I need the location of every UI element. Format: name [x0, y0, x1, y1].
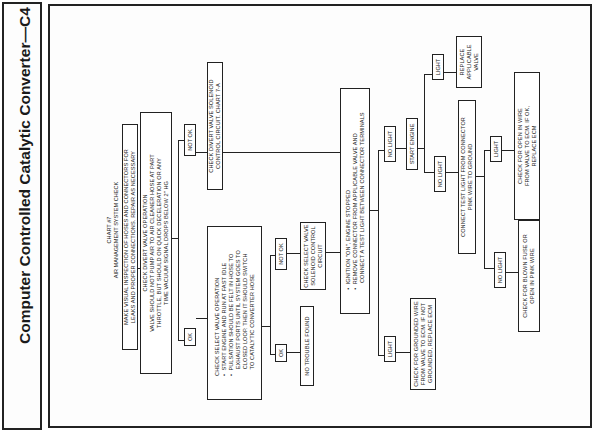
- node-text: THROTTLE, BUT SHOULD ON QUICK DECELERATI…: [156, 154, 163, 332]
- node-text: GROUNDED, REPLACE ECM: [427, 301, 434, 387]
- node-text: VALVE: [473, 44, 480, 79]
- node-text: • PULSATION SHOULD BE FELT IN HOSE TO: [228, 250, 235, 376]
- chart-heading: CHART #7 AIR MANAGEMENT SYSTEM CHECK: [104, 160, 122, 300]
- node-text: CHECK FOR BLOWN FUSE OR: [522, 234, 529, 318]
- node-text: CHECK SELECT VALVE OPERATION: [214, 250, 221, 376]
- blown-fuse-box: CHECK FOR BLOWN FUSE OR OPEN IN PINK WIR…: [518, 220, 540, 332]
- node-text: CONNECT A TEST LIGHT BETWEEN CONNECTOR T…: [359, 112, 366, 289]
- node-text: CLOSED LOOP. THEN IT SHOULD SWITCH: [242, 250, 249, 376]
- connector-line: [446, 172, 458, 173]
- branch-label-text: OK: [187, 333, 193, 341]
- node-text: NO TROUBLE FOUND: [304, 316, 311, 375]
- branch-label-start-light: LIGHT: [432, 54, 444, 80]
- select-solenoid-box: CHECK SELECT VALVE SOLENOID CONTROL CIRC…: [300, 222, 326, 290]
- branch-label-select-ok: OK: [275, 344, 287, 362]
- node-text: CHECK SELECT VALVE: [303, 224, 310, 287]
- connector-line: [287, 253, 301, 254]
- node-text: FROM VALVE TO ECM. IF NOT: [420, 301, 427, 387]
- connector-line: [326, 252, 340, 253]
- connector-line: [287, 352, 301, 353]
- connector-line: [502, 150, 514, 151]
- node-text: CIRCUIT: [317, 224, 324, 287]
- title-panel: Computer Controlled Catalytic Converter—…: [2, 2, 42, 430]
- node-text: CHECK FOR GROUNDED WIRE: [413, 301, 420, 387]
- connector-line: [506, 272, 518, 273]
- no-trouble-found-box: NO TROUBLE FOUND: [300, 306, 314, 386]
- branch-label-text: NO LIGHT: [497, 257, 503, 283]
- branch-label-divert-ok: OK: [184, 328, 196, 346]
- node-text: • REMOVE CONNECTOR FROM APPLICABLE VALVE…: [352, 112, 359, 289]
- connector-line: [270, 255, 271, 355]
- node-text: CONNECT TEST LIGHT FROM CONNECTOR: [460, 117, 467, 237]
- node-text: REPLACE ECM: [531, 106, 538, 186]
- node-text: SOLENOID CONTROL: [310, 224, 317, 287]
- branch-label-ground-light: LIGHT: [490, 136, 502, 162]
- visual-inspection-box: MAKE VISUAL INSPECTION OF HOSES AND CONN…: [122, 124, 138, 350]
- connector-line: [178, 140, 179, 340]
- connector-line: [424, 74, 425, 172]
- connector-line: [484, 150, 485, 268]
- connector-line: [424, 74, 432, 75]
- branch-label-text: LIGHT: [493, 141, 499, 157]
- connect-test-light-box: CONNECT TEST LIGHT FROM CONNECTOR PINK W…: [458, 100, 476, 254]
- ignition-on-box: • IGNITION "ON", ENGINE STOPPED • REMOVE…: [340, 88, 370, 314]
- connector-line: [396, 148, 406, 149]
- node-text: APPLICABLE: [466, 44, 473, 79]
- divert-solenoid-box: CHECK DIVERT VALVE SOLENOID CONTROL CIRC…: [207, 62, 223, 190]
- branch-label-ignition-light: LIGHT: [384, 336, 396, 362]
- node-text: TIME VACUUM SIGNAL DROPS BELOW 2" HG: [163, 154, 170, 332]
- node-text: • START ENGINE AND RUN AT FAST IDLE: [221, 250, 228, 376]
- branch-label-start-no-light: NO LIGHT: [434, 156, 446, 192]
- node-text: TO CATALYTIC CONVERTER HOSE: [249, 250, 256, 376]
- open-wire-box: CHECK FOR OPEN IN WIRE FROM VALVE TO ECM…: [514, 72, 540, 220]
- branch-label-ground-no-light: NO LIGHT: [494, 252, 506, 288]
- connector-line: [484, 268, 494, 269]
- connector-line: [378, 150, 379, 355]
- node-text: MAKE VISUAL INSPECTION OF HOSES AND CONN…: [123, 149, 130, 325]
- node-text: LEAKS AND PROPER CONNECTIONS. REPAIR AS …: [130, 149, 137, 325]
- replace-valve-box: REPLACE APPLICABLE VALVE: [456, 36, 482, 88]
- branch-label-text: NOT OK: [187, 129, 193, 150]
- branch-label-text: LIGHT: [387, 341, 393, 357]
- chart-title: AIR MANAGEMENT SYSTEM CHECK: [113, 182, 120, 279]
- node-text: FROM VALVE TO ECM. IF OK,: [524, 106, 531, 186]
- node-text: CHECK FOR OPEN IN WIRE: [517, 106, 524, 186]
- node-text: CHECK DIVERT VALVE OPERATION: [142, 154, 149, 332]
- connector-line: [424, 172, 434, 173]
- connector-line: [370, 210, 378, 211]
- grounded-wire-box: CHECK FOR GROUNDED WIRE FROM VALVE TO EC…: [410, 298, 436, 390]
- branch-label-text: LIGHT: [435, 59, 441, 75]
- branch-label-select-not-ok: NOT OK: [275, 238, 287, 270]
- node-text: • IGNITION "ON", ENGINE STOPPED: [345, 112, 352, 289]
- connector-line: [444, 72, 456, 73]
- node-text: START ENGINE: [409, 124, 415, 165]
- page-title: Computer Controlled Catalytic Converter—…: [16, 7, 34, 344]
- branch-label-text: NO LIGHT: [387, 131, 393, 157]
- node-text: REPLACE: [459, 44, 466, 79]
- divert-valve-operation-box: CHECK DIVERT VALVE OPERATION VALVE SHOUL…: [140, 112, 172, 374]
- branch-label-text: NO LIGHT: [437, 161, 443, 187]
- connector-line: [262, 326, 270, 327]
- node-text: VALVE SHOULD NOT PUMP AIR TO AIR CLEANER…: [149, 154, 156, 332]
- connector-line: [222, 152, 340, 153]
- connector-line: [396, 352, 410, 353]
- node-text: OPEN IN PINK WIRE: [529, 234, 536, 318]
- node-text: CONTROL CIRCUIT. CHART 7-A: [215, 79, 222, 172]
- node-text: PINK WIRE TO GROUND: [467, 117, 474, 237]
- branch-label-text: OK: [278, 349, 284, 357]
- node-text: CHECK DIVERT VALVE SOLENOID: [208, 79, 215, 172]
- node-text: EXHAUST PORTS UNTIL SYSTEM GOES TO: [235, 250, 242, 376]
- branch-label-divert-not-ok: NOT OK: [184, 124, 196, 156]
- branch-label-ignition-no-light: NO LIGHT: [384, 126, 396, 162]
- branch-label-text: NOT OK: [278, 243, 284, 264]
- start-engine-box: START ENGINE: [406, 118, 418, 170]
- select-valve-operation-box: CHECK SELECT VALVE OPERATION • START ENG…: [207, 226, 262, 400]
- chart-number: CHART #7: [106, 182, 113, 279]
